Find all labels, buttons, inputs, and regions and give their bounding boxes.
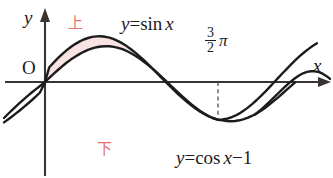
curve-sin-x	[4, 36, 317, 122]
curve-cos-x-minus-1	[4, 46, 295, 121]
origin-label: O	[22, 58, 36, 77]
sin-eq-operator: =	[129, 13, 140, 34]
cos-eq-variable: x	[223, 147, 231, 168]
fraction-denominator: 2	[205, 41, 216, 55]
cos-eq-trailing-term: −1	[232, 147, 252, 168]
pi-symbol: π	[219, 32, 228, 49]
math-figure: y x O y=sinx y=cosx−1 3 2 π 上 下	[0, 0, 333, 178]
x-axis-label: x	[313, 56, 321, 75]
tick-label-three-halves-pi: 3 2 π	[205, 26, 228, 56]
upper-region-marker: 上	[68, 16, 83, 31]
cos-eq-operator: =	[184, 147, 195, 168]
fraction-numerator: 3	[205, 26, 216, 40]
sin-curve-equation-label: y=sinx	[121, 14, 174, 33]
y-axis-label: y	[24, 8, 32, 27]
sin-eq-variable: x	[165, 13, 173, 34]
y-axis-arrowhead	[40, 8, 50, 22]
lower-region-marker: 下	[97, 142, 112, 157]
cos-curve-equation-label: y=cosx−1	[176, 148, 252, 167]
sin-eq-function: sin	[140, 13, 162, 34]
fraction-three-halves: 3 2	[205, 26, 216, 56]
cos-eq-function: cos	[195, 147, 220, 168]
